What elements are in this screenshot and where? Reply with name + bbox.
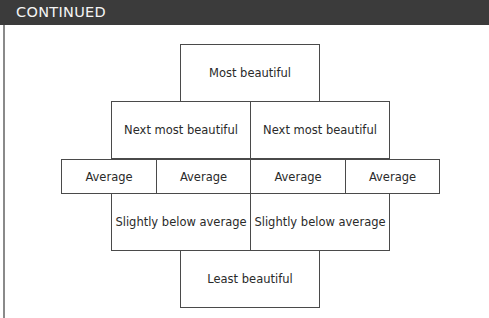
- cell-average-4: Average: [345, 159, 440, 194]
- cell-average-1: Average: [61, 159, 157, 194]
- cell-next-most-beautiful-right: Next most beautiful: [250, 101, 390, 159]
- cell-slightly-below-average-right: Slightly below average: [250, 193, 390, 251]
- left-border-rule: [3, 25, 5, 318]
- cell-average-3: Average: [250, 159, 346, 194]
- cell-average-2: Average: [156, 159, 251, 194]
- cell-least-beautiful: Least beautiful: [180, 250, 320, 308]
- cell-slightly-below-average-left: Slightly below average: [111, 193, 251, 251]
- header-bar: CONTINUED: [0, 0, 489, 25]
- header-title: CONTINUED: [16, 4, 106, 20]
- cell-next-most-beautiful-left: Next most beautiful: [111, 101, 251, 159]
- cell-most-beautiful: Most beautiful: [180, 44, 320, 102]
